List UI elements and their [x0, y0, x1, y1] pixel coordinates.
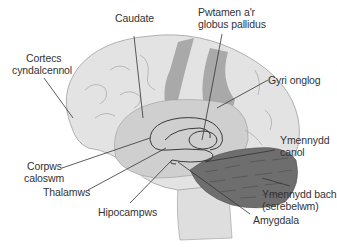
label-cortex-2: cyndalcennol — [12, 64, 72, 76]
label-angular-gyrus: Gyri onglog — [268, 74, 321, 86]
label-putamen-2: globus pallidus — [198, 18, 266, 30]
label-putamen-1: Pwtamen a'r — [198, 6, 255, 18]
label-corpus-2: caloswm — [24, 172, 64, 184]
label-caudate: Caudate — [115, 12, 154, 24]
label-thalamus: Thalamws — [43, 186, 90, 198]
label-cerebellum-1: Ymennydd bach — [262, 188, 337, 200]
label-cerebellum-2: (serebelwm) — [262, 200, 319, 212]
label-hippocampus: Hipocampws — [98, 206, 157, 218]
label-midbrain-1: Ymennydd — [280, 134, 329, 146]
label-midbrain-2: canol — [280, 146, 305, 158]
label-amygdala: Amygdala — [253, 214, 299, 226]
label-cortex-1: Cortecs — [26, 52, 61, 64]
label-corpus-1: Corpws — [27, 160, 62, 172]
